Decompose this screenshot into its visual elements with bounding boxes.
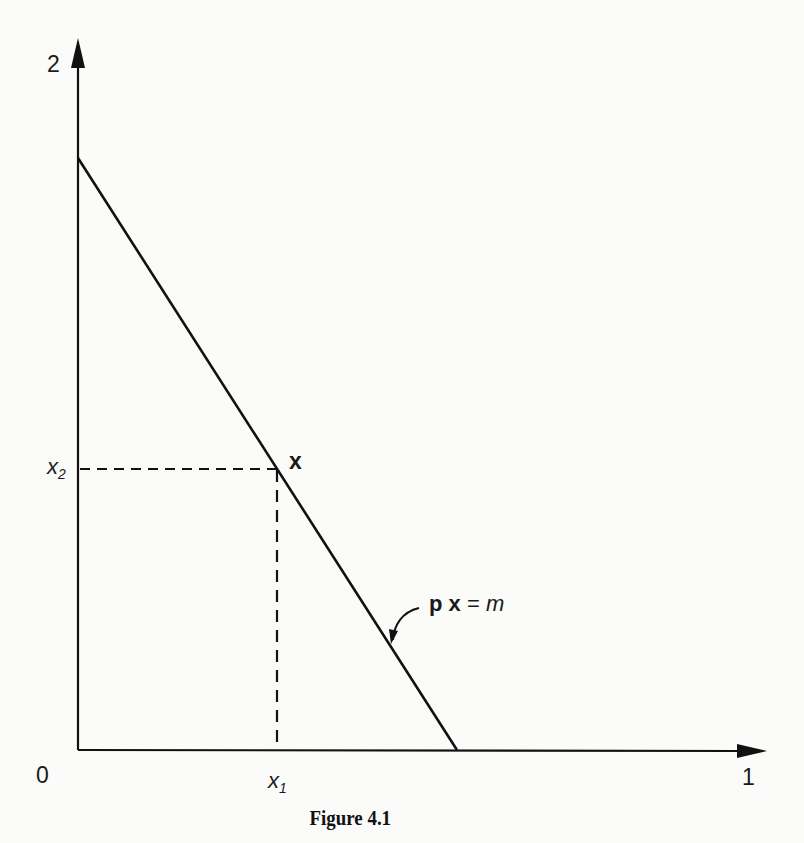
y-axis-arrowhead-icon xyxy=(71,38,85,68)
bundle-vector-x: x xyxy=(449,591,461,616)
pointer-arrowhead-icon xyxy=(389,629,398,644)
x2-label-base: x xyxy=(47,454,58,479)
figure-caption: Figure 4.1 xyxy=(0,806,804,831)
y-axis-end-label: 2 xyxy=(47,53,60,76)
x-axis-arrowhead-icon xyxy=(737,744,767,758)
figure-caption-text: Figure 4.1 xyxy=(309,806,391,831)
origin-label: 0 xyxy=(36,764,49,787)
x-axis-end-label: 1 xyxy=(742,766,755,789)
x-axis-end-value: 1 xyxy=(742,764,755,790)
point-x-text: x xyxy=(289,448,302,474)
x2-label: x2 xyxy=(47,456,66,481)
budget-set-diagram xyxy=(0,0,804,843)
y-axis-end-value: 2 xyxy=(47,51,60,77)
x1-label-sub: 1 xyxy=(279,780,287,796)
x2-label-sub: 2 xyxy=(58,466,66,482)
price-vector-p: p xyxy=(429,591,442,616)
income-m: m xyxy=(486,591,504,616)
origin-text: 0 xyxy=(36,762,49,788)
budget-line xyxy=(78,158,457,750)
x1-label: x1 xyxy=(268,770,287,795)
x-axis xyxy=(78,750,740,751)
budget-line-label: p x = m xyxy=(429,593,504,615)
x1-label-base: x xyxy=(268,768,279,793)
budget-line-pointer-arrow xyxy=(393,608,419,640)
point-x-label: x xyxy=(289,450,302,473)
equals-sign: = xyxy=(467,591,480,616)
